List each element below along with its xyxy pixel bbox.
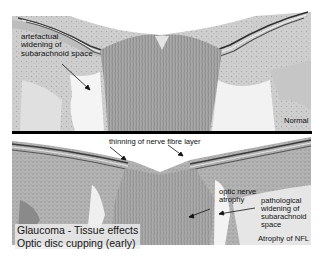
annotation-atrophy-nfl: Atrophy of NFL [258, 235, 309, 243]
annotation-line: atrophy [219, 196, 256, 204]
annotation-optic-nerve-atrophy: optic nerve atrophy [219, 188, 256, 204]
annotation-pathological-widening: pathological widening of subarachnoid sp… [261, 197, 307, 229]
annotation-artefactual-widening: artefactual widening of subarachnoid spa… [21, 33, 93, 58]
annotation-line: subarachnoid space [21, 50, 93, 58]
annotation-thinning-nfl: thinning of nerve fibre layer [109, 138, 201, 146]
top-panel-normal [12, 12, 311, 131]
annotation-line: space [261, 221, 307, 229]
figure-subtitle: Optic disc cupping (early) [17, 237, 138, 250]
figure-title: Glaucoma - Tissue effects [17, 224, 138, 237]
figure-caption: Glaucoma - Tissue effects Optic disc cup… [15, 224, 140, 249]
condition-label-normal: Normal [284, 117, 308, 125]
panel-separator [12, 131, 312, 134]
histology-figure: artefactual widening of subarachnoid spa… [0, 0, 323, 256]
